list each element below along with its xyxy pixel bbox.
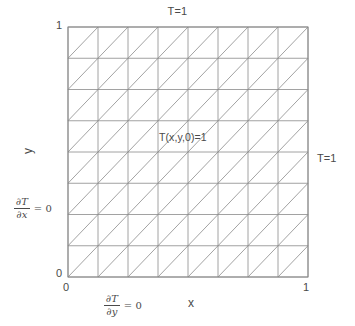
mesh-diagonal-line [158,215,188,246]
mesh-diagonal-line [218,90,248,121]
partial-derivative-x-expression: ∂T ∂x = 0 [14,197,52,220]
boundary-label-left: ∂T ∂x = 0 [14,196,52,220]
y-axis-tick-max: 1 [56,19,62,31]
mesh-diagonal-line [188,27,218,58]
initial-condition-label: T(x,y,0)=1 [159,132,207,143]
mesh-diagonal-line [218,246,248,277]
mesh-diagonal-line [248,152,278,183]
mesh-diagonal-line [218,152,248,183]
mesh-diagonal-line [218,58,248,89]
mesh-diagonal-line [68,90,98,121]
mesh-diagonal-line [248,27,278,58]
mesh-diagonal-line [188,183,218,214]
mesh-diagonal-line [68,121,98,152]
mesh-diagonal-line [248,121,278,152]
mesh-diagonal-line [158,58,188,89]
mesh-diagonal-line [278,27,308,58]
fraction-denominator: ∂y [105,306,120,317]
mesh-diagonal-line [68,183,98,214]
mesh-diagram: T=1 T=1 ∂T ∂x = 0 ∂T ∂y = 0 T(x,y,0)=1 1… [0,0,355,326]
x-axis-tick-min: 0 [63,281,69,293]
mesh-diagonal-line [68,27,98,58]
triangular-mesh [0,0,355,326]
mesh-diagonal-line [128,58,158,89]
mesh-diagonal-line [278,183,308,214]
mesh-diagonal-line [98,27,128,58]
fraction-dT-dy: ∂T ∂y [104,294,120,317]
mesh-diagonal-line [188,215,218,246]
mesh-diagonal-line [128,246,158,277]
y-axis-label: y [21,148,35,154]
equals-zero: = 0 [34,204,52,214]
mesh-diagonal-line [188,152,218,183]
mesh-diagonal-line [278,58,308,89]
mesh-diagonal-line [98,246,128,277]
x-axis-label: x [188,296,194,310]
mesh-diagonal-line [248,183,278,214]
fraction-dT-dx: ∂T ∂x [14,197,30,220]
mesh-diagonal-line [128,121,158,152]
mesh-diagonal-line [278,246,308,277]
boundary-label-bottom: ∂T ∂y = 0 [104,293,142,317]
mesh-diagonal-line [218,183,248,214]
mesh-diagonal-line [158,152,188,183]
mesh-diagonal-line [98,183,128,214]
mesh-diagonal-line [278,121,308,152]
boundary-label-right: T=1 [317,153,336,164]
mesh-diagonal-line [278,90,308,121]
mesh-diagonal-line [248,90,278,121]
mesh-diagonal-line [98,152,128,183]
mesh-diagonal-line [98,121,128,152]
mesh-diagonal-line [278,215,308,246]
y-axis-tick-min: 0 [56,267,62,279]
mesh-diagonal-line [128,27,158,58]
mesh-diagonal-line [188,90,218,121]
fraction-denominator: ∂x [15,209,30,220]
mesh-lines [68,27,308,277]
mesh-diagonal-line [98,215,128,246]
mesh-diagonal-line [158,90,188,121]
mesh-diagonal-line [128,183,158,214]
mesh-diagonal-line [128,215,158,246]
mesh-diagonal-line [68,215,98,246]
equals-zero: = 0 [124,301,142,311]
mesh-diagonal-line [158,246,188,277]
mesh-diagonal-line [98,58,128,89]
mesh-diagonal-line [68,58,98,89]
mesh-diagonal-line [248,215,278,246]
mesh-diagonal-line [188,58,218,89]
partial-derivative-y-expression: ∂T ∂y = 0 [104,294,142,317]
mesh-diagonal-line [248,58,278,89]
mesh-diagonal-line [158,183,188,214]
boundary-label-top: T=1 [0,6,355,17]
mesh-diagonal-line [128,152,158,183]
fraction-numerator: ∂T [14,197,30,209]
mesh-diagonal-line [128,90,158,121]
mesh-diagonal-line [98,90,128,121]
mesh-diagonal-line [218,215,248,246]
mesh-diagonal-line [68,246,98,277]
mesh-diagonal-line [188,246,218,277]
mesh-diagonal-line [278,152,308,183]
mesh-diagonal-line [218,121,248,152]
fraction-numerator: ∂T [104,294,120,306]
mesh-diagonal-line [68,152,98,183]
x-axis-tick-max: 1 [303,281,309,293]
mesh-diagonal-line [158,27,188,58]
mesh-diagonal-line [218,27,248,58]
mesh-diagonal-line [248,246,278,277]
